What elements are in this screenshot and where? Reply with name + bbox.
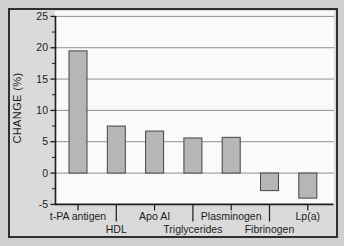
y-tick-label-0: 0: [42, 167, 48, 179]
y-axis-title: CHANGE (%): [11, 72, 23, 143]
plot-area: [55, 11, 334, 205]
x-category-label-fibrinogen: Fibrinogen: [245, 223, 295, 235]
x-category-label-hdl: HDL: [106, 223, 127, 235]
y-tick-label--5: -5: [39, 198, 48, 210]
x-category-label-triglycerides: Triglycerides: [163, 223, 222, 235]
y-tick-label-15: 15: [36, 73, 48, 85]
y-tick-label-20: 20: [36, 41, 48, 53]
bar-hdl: [107, 126, 125, 173]
bar-lp-a: [299, 173, 317, 198]
y-tick-label-5: 5: [42, 135, 48, 147]
figure-panel: -50510152025 t-PA antigenHDLApo AITrigly…: [0, 0, 344, 246]
x-category-label-apo-ai: Apo AI: [139, 210, 170, 222]
x-category-label-t-pa-antigen: t-PA antigen: [50, 210, 107, 222]
bar-plasminogen: [222, 137, 240, 173]
bar-apo-ai: [146, 131, 164, 173]
bar-t-pa-antigen: [69, 51, 87, 173]
x-category-label-plasminogen: Plasminogen: [201, 210, 262, 222]
y-tick-label-25: 25: [36, 10, 48, 22]
bar-chart: -50510152025 t-PA antigenHDLApo AITrigly…: [0, 0, 344, 246]
bar-fibrinogen: [261, 173, 279, 191]
bar-triglycerides: [184, 138, 202, 173]
y-tick-label-10: 10: [36, 104, 48, 116]
x-category-label-lp-a: Lp(a): [296, 210, 321, 222]
